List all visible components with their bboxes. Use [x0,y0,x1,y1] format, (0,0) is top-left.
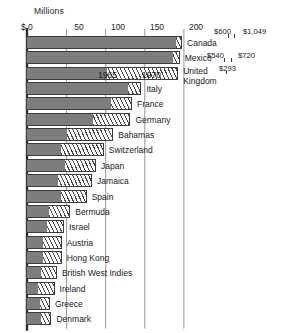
bar-segment-1965 [27,113,93,126]
bar-segment-1965 [27,143,61,156]
category-label: Greece [55,299,83,309]
leader-line-mexico-1965 [224,58,225,62]
category-label: Germany [135,115,170,125]
bar-segment-1965 [27,220,47,233]
category-label: Canada [187,38,217,48]
bar-segment-1965 [27,236,43,249]
category-label: Japan [101,161,124,171]
leader-line-canada-1965 [228,34,229,38]
category-label: Israel [69,222,90,232]
bar-segment-1965 [27,297,40,310]
bar-segment-1965 [27,97,111,110]
bar-segment-1965 [27,174,58,187]
bars-layer: CanadaMexicoUnitedKingdomItalyFranceGerm… [0,0,292,333]
bar-segment-1965 [27,282,38,295]
category-label: Austria [67,238,93,248]
category-label: France [137,99,163,109]
category-label: Ireland [60,284,86,294]
bar-segment-1965 [27,36,176,49]
bar-segment-1965 [27,128,67,141]
category-label: Spain [92,192,114,202]
series-annotation-1965: 1965 [98,70,117,80]
value-annotation-mexico-1965: $540 [207,51,224,60]
bar-chart: Millions $ 0 50 100 150 200 CanadaMexico… [0,0,292,333]
category-label: British West Indies [62,268,132,278]
value-annotation-canada-1970: $1,049 [243,27,266,36]
value-annotation-mexico-1970: $720 [238,51,255,60]
leader-line-uk-1970 [226,71,227,74]
category-label: Switzerland [109,145,153,155]
category-label: Bahamas [118,130,154,140]
bar-segment-1965 [27,251,43,264]
bar-segment-1965 [27,51,173,64]
bar-segment-1965 [27,266,41,279]
category-label: Denmark [56,314,90,324]
bar-segment-1965 [27,159,65,172]
leader-line-canada-1970 [234,34,235,38]
category-label: Bermuda [75,207,110,217]
bar-segment-1965 [27,312,41,325]
leader-line-mexico-1970 [231,58,232,62]
category-label: Italy [146,84,162,94]
value-annotation-uk-1970: $293 [219,64,236,73]
category-label: Hong Kong [67,253,110,263]
category-label: UnitedKingdom [183,66,217,86]
bar-segment-1965 [27,82,128,95]
category-label: Jamaica [97,176,129,186]
bar-segment-1965 [27,190,61,203]
bar-segment-1965 [27,205,49,218]
bar-segment-1965 [27,67,107,80]
series-annotation-1970: 1970 [142,70,161,80]
